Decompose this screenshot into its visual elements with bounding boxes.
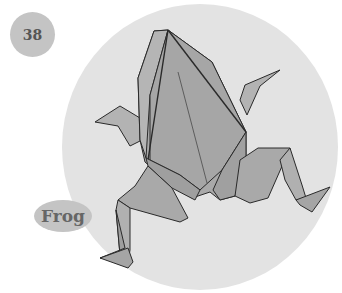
title-label: Frog — [34, 200, 92, 232]
origami-frog-illustration — [0, 0, 342, 293]
title-text: Frog — [41, 206, 85, 226]
